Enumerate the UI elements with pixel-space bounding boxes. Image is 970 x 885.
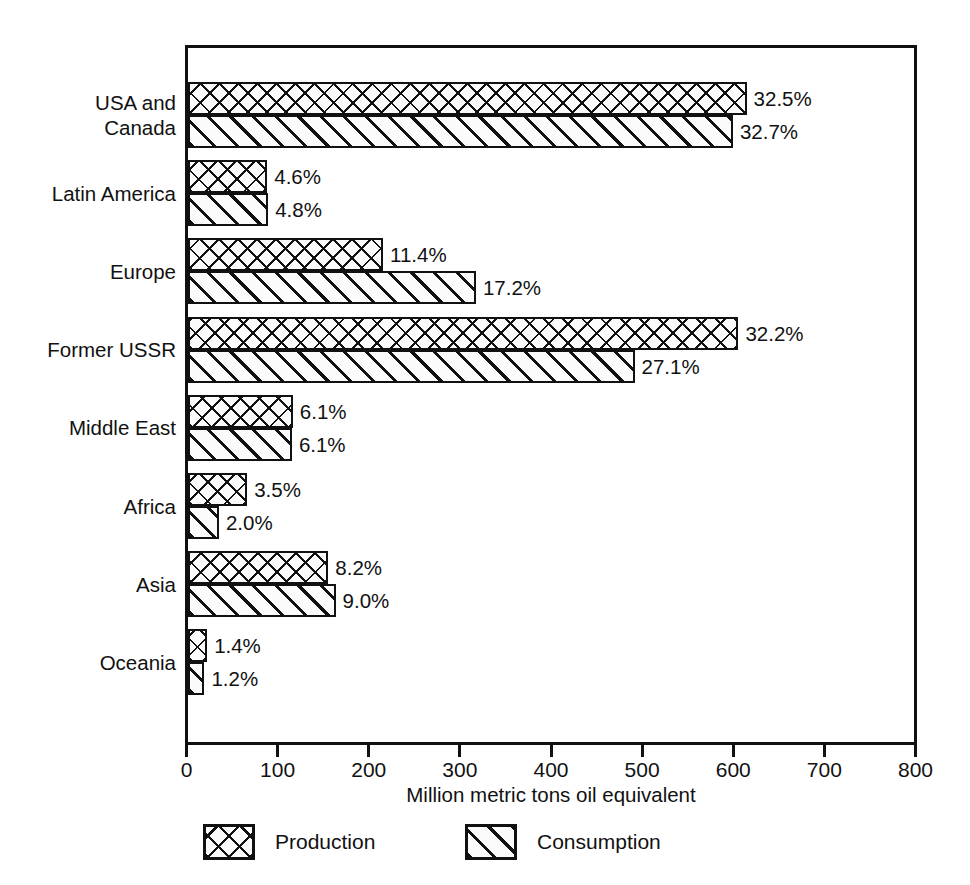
category-label: Middle East bbox=[0, 415, 176, 440]
x-axis-tick-label: 400 bbox=[511, 757, 591, 783]
x-axis-tick-label: 500 bbox=[602, 757, 682, 783]
x-axis-title: Million metric tons oil equivalent bbox=[185, 783, 917, 807]
category-axis-labels: USA and CanadaLatin AmericaEuropeFormer … bbox=[0, 45, 176, 745]
bar-value-label: 32.7% bbox=[733, 115, 798, 148]
bar-production bbox=[188, 317, 738, 350]
bar-consumption bbox=[188, 428, 292, 461]
bar-consumption bbox=[188, 193, 268, 226]
bar-value-label: 1.4% bbox=[207, 629, 261, 662]
bar-value-label: 9.0% bbox=[336, 584, 390, 617]
x-axis-tick bbox=[367, 745, 370, 757]
category-label: Latin America bbox=[0, 181, 176, 206]
bar-production bbox=[188, 629, 207, 662]
x-axis-tick-label: 300 bbox=[420, 757, 500, 783]
bar-value-label: 1.2% bbox=[204, 662, 258, 695]
category-label: Former USSR bbox=[0, 337, 176, 362]
bar-production bbox=[188, 473, 247, 506]
x-axis-tick bbox=[458, 745, 461, 757]
bar-value-label: 2.0% bbox=[219, 506, 273, 539]
bar-production bbox=[188, 238, 383, 271]
x-axis-tick bbox=[732, 745, 735, 757]
bar-value-label: 17.2% bbox=[476, 271, 541, 304]
x-axis-tick bbox=[823, 745, 826, 757]
bar-consumption bbox=[188, 584, 336, 617]
bar-value-label: 6.1% bbox=[292, 428, 346, 461]
x-axis-tick-label: 700 bbox=[784, 757, 864, 783]
x-axis-tick bbox=[276, 745, 279, 757]
bar-production bbox=[188, 160, 267, 193]
bar-chart: USA and CanadaLatin AmericaEuropeFormer … bbox=[0, 0, 970, 885]
category-label: Africa bbox=[0, 494, 176, 519]
x-axis-tick bbox=[914, 745, 917, 757]
bar-production bbox=[188, 82, 747, 115]
category-label: Asia bbox=[0, 572, 176, 597]
bar-consumption bbox=[188, 350, 635, 383]
x-axis-tick bbox=[550, 745, 553, 757]
chart-legend: ProductionConsumption bbox=[185, 820, 917, 868]
bar-value-label: 27.1% bbox=[635, 350, 700, 383]
legend-label: Production bbox=[275, 830, 375, 854]
bar-value-label: 32.2% bbox=[738, 317, 803, 350]
bar-consumption bbox=[188, 662, 204, 695]
legend-item-production[interactable]: Production bbox=[203, 820, 375, 864]
bar-production bbox=[188, 551, 328, 584]
category-label: Oceania bbox=[0, 650, 176, 675]
legend-swatch-consumption bbox=[465, 824, 517, 860]
x-axis-tick-label: 600 bbox=[693, 757, 773, 783]
category-label: Europe bbox=[0, 259, 176, 284]
bar-value-label: 8.2% bbox=[328, 551, 382, 584]
category-label: USA and Canada bbox=[0, 90, 176, 140]
bar-consumption bbox=[188, 506, 219, 539]
x-axis-tick-label: 800 bbox=[876, 757, 956, 783]
bars-layer: 32.5%4.6%11.4%32.2%6.1%3.5%8.2%1.4%32.7%… bbox=[188, 45, 917, 745]
x-axis-tick-label: 0 bbox=[147, 757, 227, 783]
x-axis-tick-label: 100 bbox=[238, 757, 318, 783]
bar-value-label: 4.6% bbox=[267, 160, 321, 193]
legend-label: Consumption bbox=[537, 830, 661, 854]
bar-value-label: 4.8% bbox=[268, 193, 322, 226]
legend-swatch-production bbox=[203, 824, 255, 860]
x-axis-tick bbox=[641, 745, 644, 757]
x-axis-tick-label: 200 bbox=[329, 757, 409, 783]
x-axis-tick bbox=[185, 745, 188, 757]
legend-item-consumption[interactable]: Consumption bbox=[465, 820, 661, 864]
bar-consumption bbox=[188, 271, 476, 304]
bar-value-label: 6.1% bbox=[293, 395, 347, 428]
bar-production bbox=[188, 395, 293, 428]
bar-value-label: 32.5% bbox=[747, 82, 812, 115]
bar-consumption bbox=[188, 115, 733, 148]
bar-value-label: 11.4% bbox=[383, 238, 447, 271]
bar-value-label: 3.5% bbox=[247, 473, 301, 506]
